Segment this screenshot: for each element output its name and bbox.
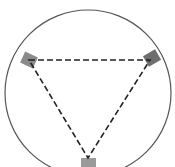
marker-bottom <box>81 158 96 167</box>
marker-right <box>143 49 161 66</box>
outer-circle <box>5 10 171 167</box>
circle-triangle-diagram <box>0 0 175 167</box>
dashed-triangle <box>29 60 150 158</box>
